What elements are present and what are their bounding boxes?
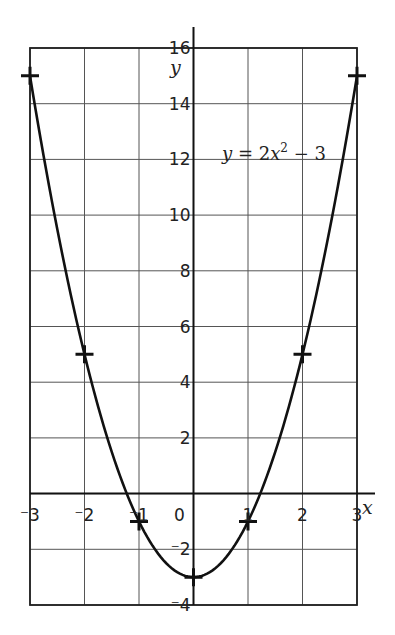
y-tick-label: ⁻2 [171, 539, 191, 559]
x-tick-label: 3 [352, 505, 363, 525]
x-tick-label: ⁻2 [75, 505, 95, 525]
x-tick-label: ⁻1 [129, 505, 149, 525]
y-axis-label: y [169, 56, 181, 78]
y-tick-label: 14 [169, 94, 191, 114]
y-tick-label: 4 [180, 372, 191, 392]
plus-marker [185, 568, 203, 586]
y-tick-label: 6 [180, 317, 191, 337]
parabola-graph: ⁻3⁻2⁻10123⁻4⁻2246810121416 y x y = 2x2 −… [0, 0, 395, 635]
x-tick-label: 2 [297, 505, 308, 525]
plus-marker [76, 345, 94, 363]
x-axis-label: x [362, 496, 373, 518]
y-tick-label: 12 [169, 149, 191, 169]
y-tick-label: ⁻4 [171, 595, 191, 615]
equation-label: y = 2x2 − 3 [221, 141, 326, 164]
x-tick-label: 1 [243, 505, 254, 525]
y-tick-label: 10 [169, 205, 191, 225]
y-tick-label: 8 [180, 261, 191, 281]
x-tick-label: ⁻3 [20, 505, 40, 525]
plus-marker [294, 345, 312, 363]
y-tick-label: 2 [180, 428, 191, 448]
x-tick-label: 0 [174, 505, 185, 525]
y-tick-label: 16 [169, 38, 191, 58]
plus-marker [21, 67, 39, 85]
plus-marker [348, 67, 366, 85]
